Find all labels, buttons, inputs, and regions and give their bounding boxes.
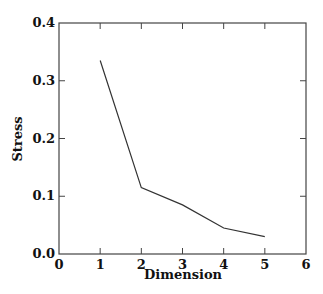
y-tick-label: 0.2	[32, 131, 55, 146]
stress-dimension-chart: 0123456 0.00.10.20.30.4 Dimension Stress	[0, 0, 323, 294]
stress-line	[100, 61, 265, 237]
x-tick-label: 1	[96, 257, 105, 272]
y-tick-label: 0.4	[32, 15, 55, 30]
y-tick-label: 0.3	[32, 73, 55, 88]
plot-border	[59, 23, 306, 254]
y-axis-ticks: 0.00.10.20.30.4	[32, 15, 306, 261]
x-tick-label: 0	[54, 257, 63, 272]
y-tick-label: 0.1	[32, 188, 55, 203]
x-tick-label: 5	[260, 257, 269, 272]
y-axis-label: Stress	[10, 116, 25, 161]
x-axis-label: Dimension	[144, 267, 223, 282]
x-tick-label: 6	[301, 257, 310, 272]
x-axis-ticks: 0123456	[54, 23, 310, 272]
y-tick-label: 0.0	[32, 246, 55, 261]
data-series	[100, 61, 265, 237]
plot-frame	[59, 23, 306, 254]
